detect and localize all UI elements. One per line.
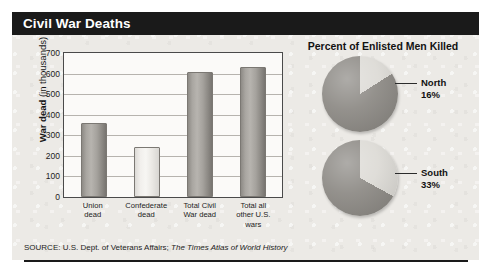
pie-north-name: North <box>421 77 446 88</box>
source-note: SOURCE: U.S. Dept. of Veterans Affairs; … <box>24 243 288 252</box>
title-bar: Civil War Deaths <box>12 12 479 35</box>
category-label: Total CivilWar dead <box>173 201 227 229</box>
y-axis-tick-label: 500 <box>46 89 60 99</box>
source-prefix: SOURCE: U.S. Dept. of Veterans Affairs; <box>24 243 169 252</box>
y-axis-tick-label: 0 <box>55 192 60 202</box>
bar-column <box>226 53 279 197</box>
bar-chart: War dead (in thousands) 0100200300400500… <box>18 46 286 232</box>
bar-plot-area: 0100200300400500600700 <box>63 52 283 198</box>
pie-south-label: South 33% <box>421 167 448 190</box>
page-title: Civil War Deaths <box>12 16 131 31</box>
y-axis-tick-label: 700 <box>46 48 60 58</box>
y-axis-tick-label: 600 <box>46 69 60 79</box>
bar-column <box>120 53 173 197</box>
bottom-rule <box>24 260 468 262</box>
pie-north-leader-line <box>395 83 417 84</box>
bar-total-civil-war-dead <box>187 72 213 197</box>
category-label: Total allother U.S.wars <box>227 201 281 229</box>
bar-column <box>173 53 226 197</box>
y-axis-tick-label: 100 <box>46 171 60 181</box>
bar-series <box>64 53 282 197</box>
x-axis-category-labels: UniondeadConfederatedeadTotal CivilWar d… <box>63 201 283 229</box>
pie-chart-south: South 33% <box>290 140 476 218</box>
pie-north-value: 16% <box>421 89 440 100</box>
bar-total-all-other-u-s-wars <box>240 67 266 197</box>
pie-south-leader-line <box>395 173 417 174</box>
bar-confederate-dead <box>134 147 160 197</box>
bar-union-dead <box>81 123 107 197</box>
bar-column <box>67 53 120 197</box>
category-label: Uniondead <box>66 201 120 229</box>
pie-south-circle <box>322 140 398 216</box>
source-italic-title: The Times Atlas of World History <box>171 243 288 252</box>
y-axis-tick-label: 300 <box>46 130 60 140</box>
pie-north-label: North 16% <box>421 77 446 100</box>
category-label: Confederatedead <box>120 201 174 229</box>
pie-group-title: Percent of Enlisted Men Killed <box>290 40 476 52</box>
gridline: 0 <box>64 197 282 198</box>
infographic-root: Civil War Deaths War dead (in thousands)… <box>0 0 491 278</box>
pie-south-name: South <box>421 167 448 178</box>
pie-chart-group: Percent of Enlisted Men Killed North 16%… <box>290 40 476 240</box>
pie-south-value: 33% <box>421 179 440 190</box>
y-axis-tick-label: 200 <box>46 151 60 161</box>
pie-chart-north: North 16% <box>290 56 476 134</box>
pie-north-circle <box>322 56 398 132</box>
y-axis-tick-label: 400 <box>46 110 60 120</box>
